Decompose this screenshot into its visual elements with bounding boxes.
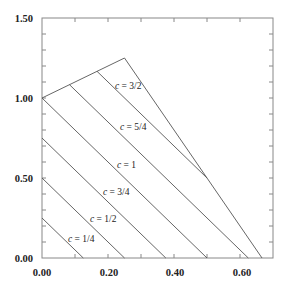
c-line	[42, 138, 166, 258]
x-tick-label: 0.60	[233, 267, 251, 278]
y-axis-labels: 0.00 0.50 1.00 1.50	[15, 13, 33, 264]
line-labels: c = 1/4 c = 1/2 c = 3/4 c = 1 c = 5/4 c …	[68, 81, 147, 244]
y-tick-label: 0.00	[15, 253, 33, 264]
label-c-one: c = 1	[117, 160, 136, 170]
c-line	[97, 71, 207, 178]
label-c-three-half: c = 3/2	[115, 81, 142, 91]
x-tick-label: 0.40	[166, 267, 184, 278]
label-c-quarter: c = 1/4	[68, 234, 95, 244]
x-tick-label: 0.00	[33, 267, 51, 278]
label-c-five-quarter: c = 5/4	[120, 122, 147, 132]
x-tick-label: 0.20	[100, 267, 118, 278]
boundary-line	[42, 58, 262, 258]
y-tick-label: 0.50	[15, 173, 33, 184]
plot-frame	[42, 18, 273, 258]
label-c-half: c = 1/2	[90, 214, 117, 224]
plot-lines	[42, 58, 262, 258]
y-tick-label: 1.00	[15, 93, 33, 104]
x-axis-labels: 0.00 0.20 0.40 0.60	[33, 267, 251, 278]
chart: 0.00 0.20 0.40 0.60 0.00 0.50 1.00 1.50 …	[0, 0, 286, 295]
label-c-three-quarter: c = 3/4	[103, 187, 130, 197]
c-line	[70, 85, 249, 258]
y-tick-label: 1.50	[15, 13, 33, 24]
axis-ticks	[42, 18, 273, 258]
